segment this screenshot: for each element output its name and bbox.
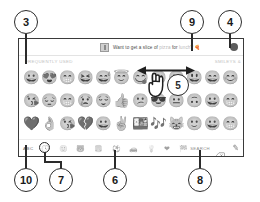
emoji-key[interactable]: 😆: [77, 71, 95, 85]
section-label-frequently-used: FREQUENTLY USED: [25, 59, 73, 64]
emoji-key[interactable]: 😀: [22, 71, 40, 85]
emoji-key[interactable]: 😘: [22, 94, 40, 108]
callout-8: 8: [188, 168, 212, 192]
callout-9: 9: [180, 10, 204, 34]
banner-link-lunch[interactable]: lunch: [179, 45, 190, 50]
emoji-key[interactable]: 😇: [113, 71, 131, 85]
emoji-key[interactable]: 😌: [95, 94, 113, 108]
emoji-key[interactable]: 😉: [149, 71, 167, 85]
food-icon[interactable]: 🍔: [94, 145, 103, 152]
symbols-icon[interactable]: ❤: [164, 145, 170, 152]
emoji-key[interactable]: 🙂: [186, 117, 204, 131]
smileys-icon[interactable]: 🙂: [59, 145, 68, 152]
callout-10: 10: [14, 168, 38, 192]
stylus-pen-icon[interactable]: ✎: [231, 143, 239, 153]
callout-5: 5: [167, 74, 189, 96]
emoji-key[interactable]: 😘: [58, 117, 76, 131]
banner-text-middle: for: [171, 45, 179, 50]
emoji-key[interactable]: 😎: [149, 94, 167, 108]
callout-4-leader: [229, 34, 231, 48]
emoji-key[interactable]: 😸: [167, 117, 185, 131]
message-banner: Want to get a slice of pizza for lunch?🍕: [19, 39, 243, 56]
emoji-key[interactable]: 😅: [95, 71, 113, 85]
callout-7-leader-h: [44, 161, 61, 163]
emoji-key[interactable]: 😁: [222, 94, 240, 108]
emoji-grid[interactable]: 😀 😍 😁 😆 😅 😇 😋 😉 🙂 😃 😄 😊 😘 😔 😁 😢 😌 👍 😕 😎 …: [19, 66, 243, 135]
emoji-keyboard-panel: Want to get a slice of pizza for lunch?🍕…: [18, 38, 244, 157]
animals-icon[interactable]: 🐻: [76, 145, 85, 152]
emoji-key[interactable]: 😁: [58, 94, 76, 108]
emoji-key[interactable]: ✌️: [113, 117, 131, 131]
emoji-key[interactable]: 😀: [204, 94, 222, 108]
emoji-key[interactable]: 🍱: [131, 117, 149, 131]
callout-3-leader: [25, 34, 27, 64]
emoji-key[interactable]: 😋: [131, 71, 149, 85]
callout-9-leader: [191, 34, 193, 51]
emoji-key[interactable]: 😁: [58, 71, 76, 85]
backspace-icon[interactable]: [216, 145, 225, 152]
objects-icon[interactable]: 💡: [147, 145, 156, 152]
callout-6: 6: [103, 168, 127, 192]
emoji-row[interactable]: 😘 😔 😁 😢 😌 👍 😕 😎 😐 🙃 😀 😁: [19, 89, 243, 112]
emoji-key[interactable]: 👍: [113, 94, 131, 108]
emoji-key[interactable]: 😁: [222, 117, 240, 131]
callout-10-leader: [25, 145, 27, 168]
activity-icon[interactable]: ⚽: [112, 145, 121, 152]
flags-icon[interactable]: 🏁: [179, 145, 188, 152]
message-banner-text: Want to get a slice of pizza for lunch?🍕: [113, 44, 200, 50]
section-label-smileys: SMILEYS &: [215, 59, 241, 64]
callout-7: 7: [49, 168, 73, 192]
callout-6-leader: [114, 150, 116, 168]
emoji-key[interactable]: 😔: [40, 94, 58, 108]
callout-4: 4: [218, 10, 242, 34]
emoji-row[interactable]: 😀 😍 😁 😆 😅 😇 😋 😉 🙂 😃 😄 😊: [19, 66, 243, 89]
emoji-key[interactable]: 🙃: [186, 94, 204, 108]
emoji-key[interactable]: 😀: [204, 117, 222, 131]
emoji-key[interactable]: 🎶: [149, 117, 167, 131]
emoji-key[interactable]: 😊: [222, 71, 240, 85]
emoji-key[interactable]: 💔: [77, 117, 95, 131]
contact-avatar-icon: [100, 43, 109, 52]
banner-text-before: Want to get a slice of: [113, 45, 159, 50]
pizza-emoji: 🍕: [194, 44, 200, 50]
emoji-key[interactable]: 😢: [77, 94, 95, 108]
callout-7-leader-v1: [44, 152, 46, 161]
emoji-key[interactable]: 😀: [95, 117, 113, 131]
callout-3: 3: [14, 10, 38, 34]
emoji-key[interactable]: 😍: [40, 71, 58, 85]
emoji-key[interactable]: 😄: [204, 71, 222, 85]
send-button-icon[interactable]: [230, 43, 238, 51]
emoji-key[interactable]: 💜: [22, 117, 40, 131]
travel-icon[interactable]: 🚗: [129, 145, 138, 152]
emoji-key[interactable]: 👌: [40, 117, 58, 131]
callout-8-leader: [199, 150, 201, 168]
category-bar[interactable]: ABC 🕓 🙂 🐻 🍔 ⚽ 🚗 💡 ❤ 🏁 SEARCH ✎: [19, 139, 243, 156]
emoji-key[interactable]: 😕: [131, 94, 149, 108]
banner-link-pizza[interactable]: pizza: [159, 45, 170, 50]
emoji-row[interactable]: 💜 👌 😘 💔 😀 ✌️ 🍱 🎶 😸 🙂 😀 😁: [19, 112, 243, 135]
